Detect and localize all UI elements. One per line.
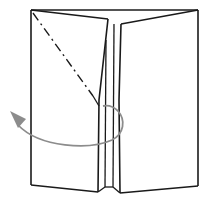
origami-diagram bbox=[0, 0, 210, 205]
fold-arrow-head-icon bbox=[10, 111, 26, 128]
